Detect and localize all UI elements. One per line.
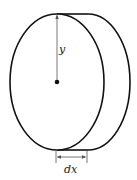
radius-label: y <box>58 43 66 56</box>
center-point <box>55 80 60 85</box>
thickness-label: dx <box>64 163 78 176</box>
disk-diagram: y dx <box>0 0 137 180</box>
dim-arrowhead-right-icon <box>82 155 87 158</box>
dim-arrowhead-left-icon <box>57 155 62 158</box>
